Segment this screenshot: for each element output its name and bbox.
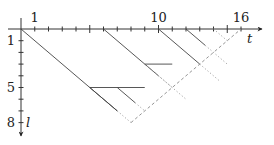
l-tick-label: 5 [7,80,15,95]
dotted-diagonal [200,64,221,82]
solid-diagonal [90,88,118,111]
solid-diagonals [21,29,205,111]
horizontal-segments [90,64,173,87]
l-tick-label: 8 [7,115,15,130]
l-axis-tick-labels: 158 [7,33,15,130]
t-tick-label: 16 [233,10,250,25]
dashed-boundary [131,29,241,123]
dotted-diagonal [135,103,145,111]
dashed-boundary-line [131,29,241,123]
solid-diagonal [159,29,200,64]
lattice-diagram: 11016 t 158 l [0,0,274,145]
dotted-diagonal [205,45,227,64]
t-axis: 11016 t [8,10,262,46]
t-tick-label: 10 [150,10,167,25]
t-axis-label: t [247,31,253,46]
l-tick-label: 1 [7,33,15,48]
t-axis-tick-labels: 11016 [31,10,250,25]
l-axis: 158 l [7,18,30,136]
dotted-diagonal [117,111,131,123]
solid-diagonal [117,88,135,103]
dotted-diagonal [214,29,228,41]
l-axis-label: l [26,115,30,130]
solid-diagonal [186,29,205,45]
t-tick-label: 1 [31,10,39,25]
dotted-diagonals [117,29,227,123]
